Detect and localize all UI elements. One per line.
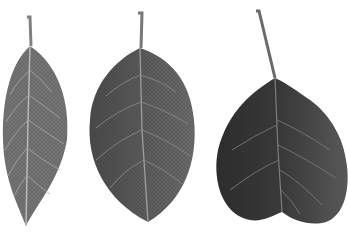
cordate-leaf [216,11,347,224]
leaves-illustration [0,0,348,234]
ovate-leaf [89,13,194,222]
leaf-photo: Three leaves on white background, left t… [0,0,348,234]
narrow-elliptic-leaf [3,17,68,226]
